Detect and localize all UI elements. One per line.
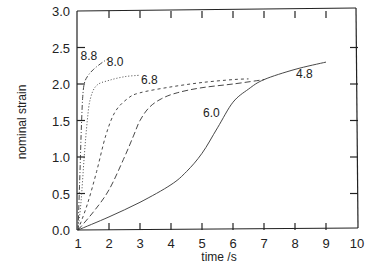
curve-labels: 8.88.06.86.04.8 <box>81 49 313 120</box>
curve-label: 4.8 <box>296 67 313 81</box>
x-tick-label: 4 <box>167 236 174 251</box>
x-tick-label: 5 <box>198 236 205 251</box>
curve-label: 6.8 <box>141 73 158 87</box>
y-tick-label: 2.0 <box>52 77 70 92</box>
curve-6-8 <box>78 79 249 230</box>
x-tick-label: 6 <box>229 236 236 251</box>
curve-label: 8.8 <box>81 49 98 63</box>
x-tick-label: 3 <box>136 236 143 251</box>
data-curves <box>78 58 326 230</box>
x-tick-label: 9 <box>322 236 329 251</box>
y-tick-label: 1.0 <box>52 150 70 165</box>
y-tick-label: 2.5 <box>52 41 70 56</box>
y-tick-label: 1.5 <box>52 114 70 129</box>
x-tick-label: 8 <box>291 236 298 251</box>
y-tick-label: 0.5 <box>52 187 70 202</box>
curve-label: 8.0 <box>107 55 124 69</box>
x-tick-label: 1 <box>74 236 81 251</box>
x-axis-title: time /s <box>201 250 236 264</box>
axis-tick-labels: 123456789100.00.51.01.52.02.53.0 <box>52 4 364 251</box>
x-tick-label: 10 <box>350 236 364 251</box>
x-tick-label: 7 <box>260 236 267 251</box>
axis-ticks <box>77 11 358 230</box>
x-tick-label: 2 <box>105 236 112 251</box>
chart: 123456789100.00.51.01.52.02.53.0 8.88.06… <box>0 0 372 272</box>
curve-label: 6.0 <box>203 106 220 120</box>
y-axis-title: nominal strain <box>15 85 29 160</box>
curve-6-0 <box>78 80 264 230</box>
y-tick-label: 3.0 <box>52 4 70 19</box>
y-tick-label: 0.0 <box>52 223 70 238</box>
